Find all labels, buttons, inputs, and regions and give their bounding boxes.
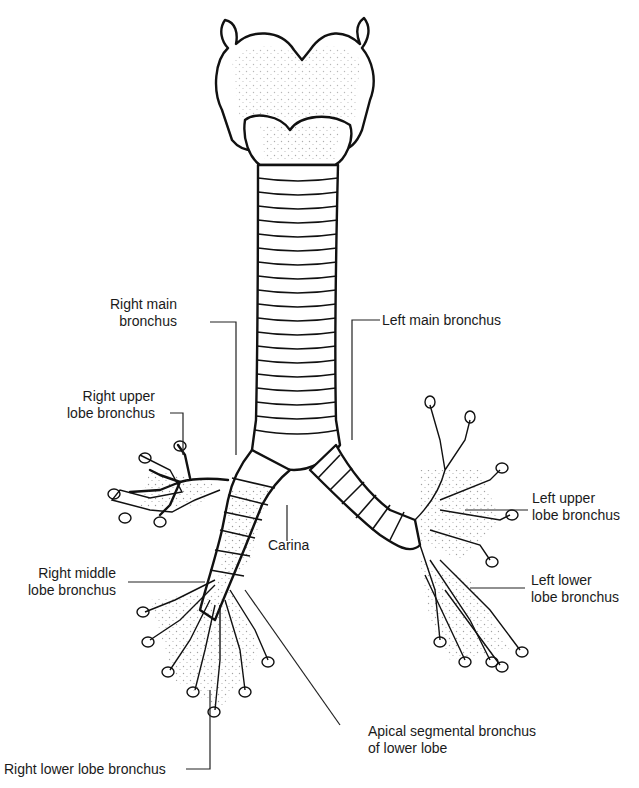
label-line: Right main (110, 296, 177, 313)
label-carina: Carina (268, 537, 309, 554)
label-line: of lower lobe (368, 740, 536, 757)
label-line: Left lower (531, 572, 619, 589)
label-line: Left upper (532, 490, 620, 507)
label-apical-segmental-bronchus: Apical segmental bronchus of lower lobe (368, 723, 536, 757)
left-bronchial-tree (310, 396, 528, 672)
label-right-middle-lobe-bronchus: Right middle lobe bronchus (28, 565, 116, 599)
label-right-main-bronchus: Right main bronchus (110, 296, 177, 330)
label-line: bronchus (110, 313, 177, 330)
label-line: lobe bronchus (28, 582, 116, 599)
label-line: Apical segmental bronchus (368, 723, 536, 740)
label-line: Carina (268, 537, 309, 554)
trachea (252, 165, 340, 470)
bronchial-tree-diagram: Right main bronchus Left main bronchus R… (0, 0, 639, 788)
label-line: lobe bronchus (67, 405, 155, 422)
label-line: Left main bronchus (382, 312, 501, 329)
label-right-upper-lobe-bronchus: Right upper lobe bronchus (67, 388, 155, 422)
label-line: Right middle (28, 565, 116, 582)
label-right-lower-lobe-bronchus: Right lower lobe bronchus (4, 761, 166, 778)
right-bronchial-tree (108, 441, 290, 717)
label-left-main-bronchus: Left main bronchus (382, 312, 501, 329)
label-line: lobe bronchus (532, 507, 620, 524)
label-line: lobe bronchus (531, 589, 619, 606)
label-line: Right lower lobe bronchus (4, 761, 166, 778)
label-left-upper-lobe-bronchus: Left upper lobe bronchus (532, 490, 620, 524)
label-line: Right upper (67, 388, 155, 405)
label-left-lower-lobe-bronchus: Left lower lobe bronchus (531, 572, 619, 606)
larynx (216, 18, 374, 165)
